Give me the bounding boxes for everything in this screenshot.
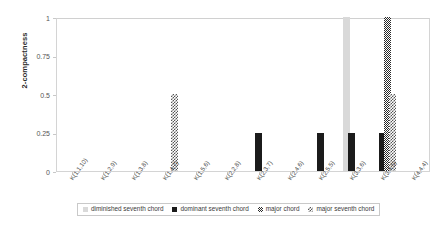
bar [255, 133, 262, 172]
bars-layer [57, 19, 429, 171]
legend-swatch-icon [172, 207, 177, 212]
legend-label: diminished seventh chord [91, 206, 163, 212]
legend-item[interactable]: diminished seventh chord [83, 206, 163, 212]
legend-item[interactable]: major seventh chord [308, 206, 374, 212]
legend-label: major seventh chord [316, 206, 374, 212]
legend-label: dominant seventh chord [180, 206, 248, 212]
legend-swatch-icon [308, 207, 313, 212]
y-axis-tick-mark [53, 172, 56, 173]
chart-legend: diminished seventh chorddominant seventh… [77, 203, 380, 216]
chart-container: 2-compactness 00.250.50.751 K(1,1,10)K(1… [0, 0, 440, 236]
plot-area [56, 18, 430, 172]
y-axis-tick-label: 0 [16, 169, 50, 176]
legend-swatch-icon [258, 207, 263, 212]
legend-item[interactable]: major chord [258, 206, 300, 212]
legend-label: major chord [266, 206, 300, 212]
legend-item[interactable]: dominant seventh chord [172, 206, 248, 212]
y-axis-tick-label: 1 [16, 15, 50, 22]
bar [348, 133, 355, 172]
bar [317, 133, 324, 172]
y-axis-tick-label: 0.5 [16, 92, 50, 99]
legend-swatch-icon [83, 207, 88, 212]
y-axis-tick-label: 0.75 [16, 53, 50, 60]
y-axis-tick-label: 0.25 [16, 130, 50, 137]
